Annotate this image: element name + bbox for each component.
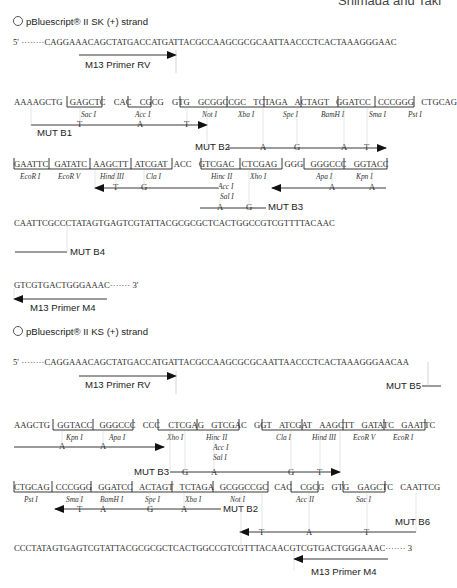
ks-strand-heading: pBluescript® II KS (+) strand — [13, 326, 148, 337]
mut-base: A — [100, 504, 106, 514]
enzyme-label: Acc I — [213, 443, 228, 452]
enzyme-label: Kpn I — [356, 172, 373, 181]
mut-b6-label: MUT B6 — [395, 516, 430, 527]
site-spe-i: ACTAGT — [139, 482, 173, 492]
ks-seq-line-2: AAGCTG GGTACC GGGCCC CCC CTCGAG GTCGAC G… — [14, 420, 435, 430]
enzyme-label: Sac I — [356, 495, 371, 504]
five-prime-marker: 5' ········ — [13, 37, 44, 47]
site-xho-i: CTCGAG — [168, 420, 204, 430]
sk-strand-title: pBluescript® II SK (+) strand — [26, 16, 148, 27]
sk-seq-5: GTCGTGACTGGGAAAC — [14, 280, 110, 290]
sk-seq-line-1: 5' ········CAGGAAACAGCTATGACCATGATTACGCC… — [13, 37, 397, 47]
ks-seq-4: CCCTATAGTGAGTCGTATTACGCGCGCTCACTGGCCGTCG… — [14, 543, 385, 553]
spacer-seq: GTG — [172, 97, 190, 107]
enzyme-label: Sac I — [81, 110, 96, 119]
enzyme-label: Pst I — [24, 495, 38, 504]
ks-lead-seq: AAGCTG — [14, 420, 50, 430]
enzyme-label: Acc II — [296, 495, 314, 504]
site-acc-ii: CGCG — [300, 482, 324, 492]
ks-seq-line-3: CTGCAG CCCGGG GGATCC ACTAGT TCTAGA GCGGC… — [14, 482, 440, 492]
mut-b1-label: MUT B1 — [37, 127, 72, 138]
mut-base: G — [182, 467, 188, 477]
site-sac-i: GAGCTC — [70, 97, 106, 107]
spacer-seq: CCC — [143, 420, 160, 430]
mut-base: T — [77, 119, 82, 129]
mut-base: A — [100, 441, 106, 451]
enzyme-label: Sal I — [220, 192, 234, 201]
three-prime-marker: ······· 3 — [385, 543, 412, 553]
sk-primer-rv-label: M13 Primer RV — [85, 59, 150, 70]
mut-base: T — [317, 467, 322, 477]
site-acc-i: CGCG — [140, 97, 164, 107]
enzyme-label: EcoR V — [58, 172, 80, 181]
enzyme-label: Xho I — [167, 433, 183, 442]
enzyme-label: Hind III — [100, 172, 124, 181]
mut-base: A — [217, 202, 223, 212]
enzyme-label: Sma I — [369, 110, 386, 119]
mut-b4-label: MUT B4 — [70, 246, 105, 257]
mut-base: A — [211, 467, 217, 477]
enzyme-label: EcoR V — [353, 433, 375, 442]
enzyme-label: Hind III — [312, 433, 336, 442]
site-spe-i: ACTAGT — [295, 97, 329, 107]
spacer-seq: ACC — [174, 159, 192, 169]
bullet-circle-icon — [13, 16, 23, 26]
mut-base: A — [329, 182, 335, 192]
site-bamh-i: GGATCC — [98, 482, 133, 492]
mut-base: T — [77, 504, 82, 514]
spacer-seq: CAC — [274, 482, 292, 492]
mut-base: G — [141, 182, 147, 192]
three-prime-marker: ······· 3' — [110, 280, 139, 290]
enzyme-label: Hinc II — [211, 172, 232, 181]
sk-seq-line-2: AAAAGCTG GAGCTC CAC CGCG GTG GCGGCCGC TC… — [14, 97, 457, 107]
site-ecor-v: GATATC — [361, 420, 394, 430]
sk-lead-seq: AAAAGCTG — [14, 97, 63, 107]
enzyme-label: BamH I — [100, 495, 123, 504]
mut-b2-label: MUT B2 — [223, 503, 258, 514]
ks-seq-line-4: CCCTATAGTGAGTCGTATTACGCGCGCTCACTGGCCGTCG… — [14, 543, 412, 553]
mut-base: A — [306, 527, 312, 537]
site-pst-i: CTGCAG — [14, 482, 50, 492]
spacer-seq: GGG — [284, 159, 303, 169]
site-hind-iii: AAGCTT — [93, 159, 128, 169]
site-sal-i: GTCGAC — [211, 420, 247, 430]
site-kpn-i: GGTACC — [57, 420, 92, 430]
mut-base: T — [364, 142, 369, 152]
site-sma-i: CCCGGG — [378, 97, 414, 107]
mut-base: G — [246, 202, 252, 212]
mut-base: A — [341, 142, 347, 152]
spacer-seq: GGT — [254, 420, 272, 430]
site-xba-i: TCTAGA — [180, 482, 214, 492]
enzyme-label: Sal I — [213, 453, 227, 462]
enzyme-label: Kpn I — [66, 433, 83, 442]
site-hind-iii: AAGCTT — [319, 420, 354, 430]
mut-base: G — [288, 467, 294, 477]
site-not-i: GCGGCCGC — [198, 97, 246, 107]
ks-primer-rv-label: M13 Primer RV — [85, 379, 150, 390]
spacer-seq: GTG — [331, 482, 349, 492]
spacer-seq: CAATTCG — [400, 482, 440, 492]
mut-base: T — [259, 527, 264, 537]
enzyme-label: Pst I — [408, 110, 422, 119]
sk-seq-line-3: GAATTC GATATC AAGCTT ATCGAT ACC GTCGAC C… — [14, 159, 389, 169]
enzyme-label: Cla I — [276, 433, 291, 442]
site-xho-i: CTCGAG — [242, 159, 278, 169]
enzyme-label: BamH I — [321, 110, 344, 119]
mut-b3-label: MUT B3 — [134, 466, 169, 477]
sk-seq-line-4: CAATTCGCCCTATAGTGAGTCGTATTACGCGCGCTCACTG… — [14, 218, 335, 228]
site-ecor-i: GAATTC — [14, 159, 48, 169]
site-not-i: GCGGCCGC — [220, 482, 268, 492]
mut-base: A — [260, 142, 266, 152]
mut-base: A — [181, 504, 187, 514]
enzyme-label: Apa I — [109, 433, 125, 442]
ks-strand-title: pBluescript® II KS (+) strand — [26, 326, 148, 337]
site-ecor-v: GATATC — [54, 159, 87, 169]
enzyme-label: Xba I — [238, 110, 254, 119]
sk-strand-heading: pBluescript® II SK (+) strand — [13, 16, 148, 27]
sk-primer-m4-label: M13 Primer M4 — [30, 302, 96, 313]
bullet-circle-icon — [13, 326, 23, 336]
mut-base: T — [364, 527, 369, 537]
mut-base: T — [113, 182, 118, 192]
site-cla-i: ATCGAT — [134, 159, 167, 169]
mut-b5-label: MUT B5 — [386, 380, 421, 391]
